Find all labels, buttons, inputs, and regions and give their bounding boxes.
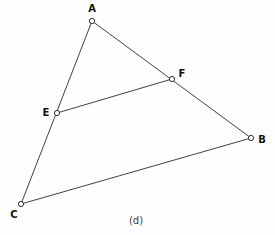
vertex-marker-f[interactable] bbox=[169, 76, 174, 81]
figure-caption: (d) bbox=[129, 215, 143, 226]
vertex-marker-b[interactable] bbox=[248, 135, 253, 140]
vertex-label-c: C bbox=[10, 210, 17, 220]
figure-canvas bbox=[0, 0, 275, 235]
vertex-marker-a[interactable] bbox=[89, 18, 94, 23]
vertex-label-b: B bbox=[258, 135, 266, 145]
vertex-label-f: F bbox=[179, 69, 186, 79]
edge-e-f bbox=[57, 79, 172, 113]
vertex-marker-c[interactable] bbox=[18, 201, 23, 206]
vertex-markers-group bbox=[18, 18, 253, 206]
geometry-figure: ABCEF (d) bbox=[0, 0, 275, 235]
vertex-label-a: A bbox=[88, 4, 96, 14]
edge-c-b bbox=[21, 138, 251, 204]
vertex-marker-e[interactable] bbox=[54, 110, 59, 115]
vertex-label-e: E bbox=[43, 108, 50, 118]
